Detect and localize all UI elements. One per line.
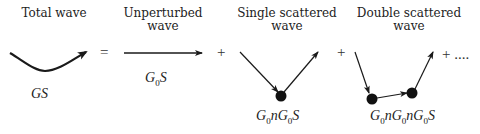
single-outgoing-arrow <box>284 52 318 92</box>
plus-sign-1: + <box>217 44 225 61</box>
total-wave-title: Total wave <box>14 7 94 20</box>
double-scatterer-dot-1 <box>367 94 378 105</box>
double-scattered-expression: G0nG0nG0S <box>370 108 435 126</box>
single-incoming-arrow <box>240 52 278 92</box>
plus-ellipsis: + .... <box>442 46 469 63</box>
unperturbed-wave-expression: G0S <box>145 70 167 88</box>
double-scattered-title: Double scattered wave <box>354 7 464 33</box>
single-scatterer-dot <box>276 91 287 102</box>
double-middle-arrow <box>377 93 407 98</box>
total-wave-curve <box>10 52 86 71</box>
equals-sign: = <box>100 44 108 61</box>
single-scattered-expression: G0nG0S <box>256 108 299 126</box>
double-scatterer-dot-2 <box>407 88 418 99</box>
unperturbed-wave-title: Unperturbed wave <box>118 7 208 33</box>
single-scattered-title: Single scattered wave <box>232 7 342 33</box>
double-incoming-arrow <box>355 52 369 93</box>
total-wave-expression: GS <box>31 86 48 102</box>
double-outgoing-arrow <box>415 52 433 89</box>
plus-sign-2: + <box>337 44 345 61</box>
